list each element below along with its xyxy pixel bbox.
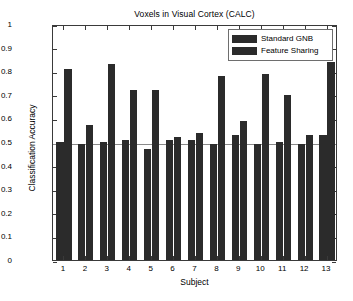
x-axis-tick: [261, 256, 262, 260]
legend-item: Standard GNB: [229, 33, 332, 44]
x-axis-tick: [151, 256, 152, 260]
legend-item-label: Standard GNB: [261, 34, 313, 43]
x-axis-tick-label: 8: [206, 264, 226, 273]
bar-feature-sharing-subject-6: [174, 137, 181, 260]
x-axis-tick: [85, 26, 86, 30]
x-axis-tick: [63, 26, 64, 30]
bar-standard-gnb-subject-13: [319, 135, 326, 260]
bar-standard-gnb-subject-1: [56, 142, 63, 260]
x-axis-tick-label: 3: [97, 264, 117, 273]
plot-inner: [53, 26, 336, 260]
y-axis-tick-label: 1: [8, 20, 12, 29]
legend-item: Feature Sharing: [229, 45, 332, 56]
bar-feature-sharing-subject-8: [218, 76, 225, 260]
bar-feature-sharing-subject-1: [64, 69, 71, 260]
bar-feature-sharing-subject-5: [152, 90, 159, 260]
bar-group: [78, 26, 93, 260]
bar-group: [100, 26, 115, 260]
bar-feature-sharing-subject-2: [86, 125, 93, 260]
bar-group: [298, 26, 313, 260]
y-axis-tick-label: 0.4: [1, 162, 12, 171]
x-axis-tick: [173, 256, 174, 260]
x-axis-tick-label: 7: [185, 264, 205, 273]
chart-legend: Standard GNB Feature Sharing: [228, 29, 333, 61]
y-axis-tick-label: 0.7: [1, 91, 12, 100]
x-axis-tick: [217, 26, 218, 30]
bar-feature-sharing-subject-11: [284, 95, 291, 260]
bar-group: [56, 26, 71, 260]
y-axis-tick-label: 0.1: [1, 232, 12, 241]
x-axis-tick-label: 13: [316, 264, 336, 273]
y-axis-tick-label: 0.2: [1, 209, 12, 218]
x-axis-tick: [239, 256, 240, 260]
y-axis-tick-label: 0.9: [1, 44, 12, 53]
x-axis-tick: [107, 26, 108, 30]
y-axis-tick-label: 0.8: [1, 67, 12, 76]
x-axis-tick: [63, 256, 64, 260]
x-axis-tick: [283, 256, 284, 260]
bar-feature-sharing-subject-13: [327, 62, 334, 260]
x-axis-tick: [217, 256, 218, 260]
y-axis-tick-label: 0.6: [1, 114, 12, 123]
bar-group: [210, 26, 225, 260]
bar-standard-gnb-subject-2: [78, 144, 85, 260]
x-axis-tick-label: 5: [141, 264, 161, 273]
page-title: Voxels in Visual Cortex (CALC): [52, 9, 337, 19]
y-axis-label: Classification Accuracy: [27, 68, 37, 228]
bar-standard-gnb-subject-7: [188, 140, 195, 260]
x-axis-tick: [151, 26, 152, 30]
bar-group: [319, 26, 334, 260]
bar-standard-gnb-subject-6: [166, 140, 173, 260]
bar-feature-sharing-subject-4: [130, 90, 137, 260]
y-axis-tick-label: 0: [8, 256, 12, 265]
legend-swatch-icon: [232, 35, 257, 43]
bar-standard-gnb-subject-5: [144, 149, 151, 260]
x-axis-tick-label: 9: [228, 264, 248, 273]
x-axis-label: Subject: [52, 277, 337, 287]
x-axis-tick: [327, 256, 328, 260]
bar-standard-gnb-subject-3: [100, 142, 107, 260]
figure-canvas: Voxels in Visual Cortex (CALC) Classific…: [0, 0, 353, 301]
bar-feature-sharing-subject-7: [196, 133, 203, 260]
bar-feature-sharing-subject-12: [306, 135, 313, 260]
x-axis-tick: [85, 256, 86, 260]
x-axis-tick-label: 1: [53, 264, 73, 273]
bar-group: [232, 26, 247, 260]
x-axis-tick-label: 6: [163, 264, 183, 273]
x-axis-tick: [195, 26, 196, 30]
bar-standard-gnb-subject-8: [210, 144, 217, 260]
bar-feature-sharing-subject-9: [240, 121, 247, 260]
bar-feature-sharing-subject-3: [108, 64, 115, 260]
x-axis-tick: [195, 256, 196, 260]
y-axis-tick-label: 0.3: [1, 185, 12, 194]
legend-swatch-icon: [232, 47, 257, 55]
bar-standard-gnb-subject-12: [298, 144, 305, 260]
x-axis-tick: [129, 256, 130, 260]
x-axis-tick: [305, 256, 306, 260]
y-axis-tick: [53, 262, 57, 263]
x-axis-tick: [129, 26, 130, 30]
bar-standard-gnb-subject-10: [254, 144, 261, 260]
bar-group: [122, 26, 137, 260]
bar-standard-gnb-subject-4: [122, 140, 129, 260]
x-axis-tick: [173, 26, 174, 30]
bar-standard-gnb-subject-11: [276, 142, 283, 260]
y-axis-tick-label: 0.5: [1, 138, 12, 147]
bar-feature-sharing-subject-10: [262, 74, 269, 260]
x-axis-tick-label: 10: [250, 264, 270, 273]
x-axis-tick-label: 2: [75, 264, 95, 273]
x-axis-tick: [107, 256, 108, 260]
x-axis-tick-label: 4: [119, 264, 139, 273]
x-axis-tick-label: 12: [294, 264, 314, 273]
legend-item-label: Feature Sharing: [261, 46, 318, 55]
bar-group: [254, 26, 269, 260]
x-axis-tick-label: 11: [272, 264, 292, 273]
bar-group: [276, 26, 291, 260]
bar-group: [166, 26, 181, 260]
bar-group: [188, 26, 203, 260]
y-axis-tick: [332, 262, 336, 263]
bar-standard-gnb-subject-9: [232, 135, 239, 260]
bar-group: [144, 26, 159, 260]
